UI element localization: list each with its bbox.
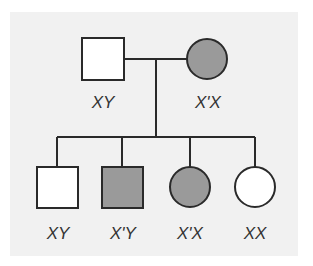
mother-genotype-label: X'X (194, 93, 222, 112)
child-3-genotype-label: X'X (176, 224, 204, 243)
child-4-unaffected-female-circle (235, 167, 275, 207)
child-1-genotype-label: XY (46, 224, 71, 243)
father-genotype-label: XY (91, 93, 116, 112)
child-1-unaffected-male-square (37, 167, 78, 208)
pedigree-diagram: XY X'X XY X'Y X'X XX (0, 0, 313, 266)
child-2-affected-male-square (102, 167, 143, 208)
child-3-affected-female-circle (170, 167, 210, 207)
child-4-genotype-label: XX (243, 224, 267, 243)
child-2-genotype-label: X'Y (109, 224, 138, 243)
father-unaffected-male-square (82, 38, 124, 80)
mother-affected-female-circle (187, 39, 227, 79)
